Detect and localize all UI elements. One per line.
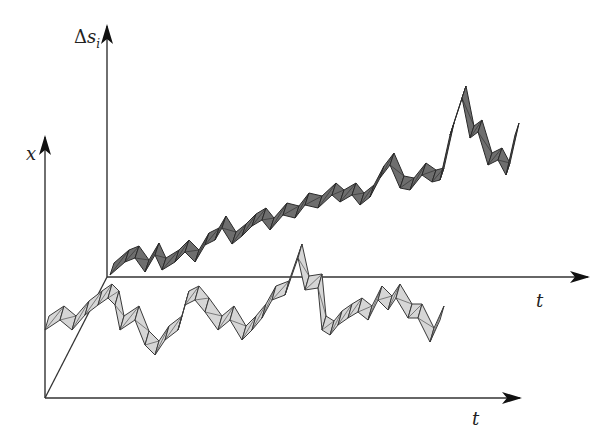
dark-ribbon	[110, 86, 519, 275]
back-y-axis-label: Δsi	[74, 28, 100, 46]
s-var: s	[87, 26, 96, 47]
front-y-axis-label: x	[26, 145, 36, 163]
diagram-canvas	[0, 0, 616, 445]
back-x-axis-label: t	[536, 292, 543, 310]
i-subscript: i	[96, 37, 100, 51]
light-ribbon	[45, 244, 444, 355]
front-x-axis-label: t	[472, 410, 479, 428]
delta-symbol: Δ	[74, 26, 87, 47]
